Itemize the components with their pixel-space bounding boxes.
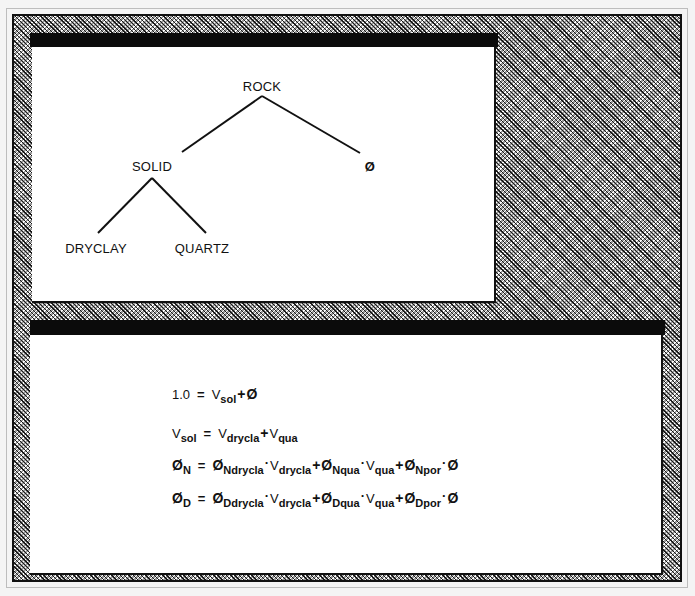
equation-3: ØN=ØNdrycla·Vdrycla+ØNqua·Vqua+ØNpor·Ø (172, 457, 458, 473)
eq3-dot-3: · (442, 455, 446, 470)
phi-icon: Ø (172, 457, 183, 473)
node-porosity[interactable]: Ø (365, 159, 375, 174)
edge-rock-solid (182, 96, 262, 152)
phi-icon: Ø (321, 457, 332, 473)
eq2-v1: V (218, 426, 227, 441)
node-solid[interactable]: SOLID (132, 159, 172, 174)
equations-window-titlebar[interactable] (30, 320, 665, 335)
phi-icon: Ø (172, 490, 183, 506)
eq4-plus-1: + (312, 490, 320, 506)
equation-4: ØD=ØDdrycla·Vdrycla+ØDqua·Vqua+ØDpor·Ø (172, 490, 458, 506)
eq2-v2: V (269, 426, 278, 441)
equations-window-content: 1.0=Vsol+Ø Vsol=Vdrycla+Vqua ØN=ØNdrycla… (30, 335, 663, 575)
edge-rock-porosity (262, 96, 360, 153)
eq4-dot-2: · (361, 488, 365, 503)
phi-icon: Ø (212, 457, 223, 473)
eq2-sub-qua: qua (278, 432, 298, 444)
eq1-equals: = (197, 387, 205, 402)
eq3-sub-npor: Npor (415, 464, 441, 476)
eq3-sub-qua: qua (375, 464, 395, 476)
eq4-sub-dpor: Dpor (415, 497, 441, 509)
eq3-equals: = (198, 458, 206, 473)
eq2-equals: = (204, 426, 212, 441)
eq4-sub-qua: qua (375, 497, 395, 509)
phi-icon: Ø (404, 457, 415, 473)
phi-icon: Ø (212, 490, 223, 506)
phi-icon: Ø (246, 386, 257, 402)
equations-window: 1.0=Vsol+Ø Vsol=Vdrycla+Vqua ØN=ØNdrycla… (30, 320, 665, 575)
eq4-v1: V (270, 491, 279, 506)
edge-solid-dryclay (98, 178, 152, 233)
eq3-dot-1: · (265, 455, 269, 470)
eq4-sub-ddrycla: Ddrycla (223, 497, 263, 509)
eq3-v1: V (270, 458, 279, 473)
eq4-plus-2: + (395, 490, 403, 506)
eq4-equals: = (198, 491, 206, 506)
eq1-lhs: 1.0 (172, 387, 190, 402)
eq4-v2: V (366, 491, 375, 506)
eq4-lhs-sub: D (183, 497, 191, 509)
eq4-sub-dqua: Dqua (332, 497, 360, 509)
eq4-dot-1: · (265, 488, 269, 503)
eq3-sub-drycla: drycla (279, 464, 311, 476)
eq1-sub-sol: sol (220, 393, 236, 405)
tree-window-content: ROCK SOLID Ø DRYCLAY QUARTZ (32, 47, 496, 303)
eq3-v2: V (366, 458, 375, 473)
eq2-plus: + (260, 425, 268, 441)
eq2-lhs-v: V (172, 426, 181, 441)
eq3-plus-2: + (395, 457, 403, 473)
node-rock[interactable]: ROCK (243, 79, 281, 94)
equation-1: 1.0=Vsol+Ø (172, 386, 257, 402)
node-quartz[interactable]: QUARTZ (175, 241, 229, 256)
tree-window: ROCK SOLID Ø DRYCLAY QUARTZ (30, 33, 498, 303)
phi-icon: Ø (447, 490, 458, 506)
eq3-lhs-sub: N (183, 464, 191, 476)
phi-icon: Ø (404, 490, 415, 506)
phi-icon: Ø (447, 457, 458, 473)
eq4-sub-drycla: drycla (279, 497, 311, 509)
eq2-sub-drycla: drycla (227, 432, 259, 444)
eq3-plus-1: + (312, 457, 320, 473)
eq2-lhs-sub: sol (181, 432, 197, 444)
node-dryclay[interactable]: DRYCLAY (65, 241, 127, 256)
phi-icon: Ø (321, 490, 332, 506)
edge-solid-quartz (152, 178, 206, 233)
eq3-dot-2: · (361, 455, 365, 470)
eq3-sub-nqua: Nqua (332, 464, 360, 476)
tree-window-titlebar[interactable] (30, 33, 498, 47)
eq3-sub-ndrycla: Ndrycla (223, 464, 263, 476)
equation-2: Vsol=Vdrycla+Vqua (172, 425, 298, 441)
eq4-dot-3: · (442, 488, 446, 503)
eq1-plus: + (237, 386, 245, 402)
